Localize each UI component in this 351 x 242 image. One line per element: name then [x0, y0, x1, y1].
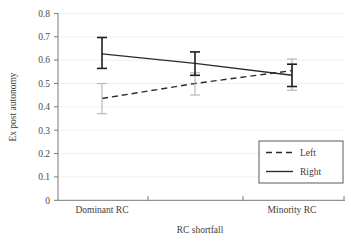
y-tick-label-3: 0.3 — [38, 126, 50, 136]
y-tick-label-5: 0.5 — [38, 79, 50, 89]
x-tick-label-minority-rc: Minority RC — [268, 205, 317, 215]
legend: Left Right — [259, 141, 343, 183]
legend-label-left: Left — [300, 148, 316, 158]
y-tick-label-1: 0.1 — [38, 172, 50, 182]
y-tick-label-7: 0.7 — [38, 32, 50, 42]
y-tick-label-8: 0.8 — [38, 9, 50, 19]
x-axis-title: RC shortfall — [177, 225, 224, 235]
series-right-line — [102, 54, 292, 75]
series-right-error-bars — [97, 38, 297, 87]
y-tick-label-2: 0.2 — [38, 149, 50, 159]
chart-container: 0 0.1 0.2 0.3 0.4 0.5 0.6 0.7 0.8 — [0, 0, 351, 242]
y-tick-label-0: 0 — [45, 196, 50, 206]
y-tick-label-4: 0.4 — [38, 102, 50, 112]
y-axis-title: Ex post autonomy — [8, 72, 18, 141]
x-tick-label-dominant-rc: Dominant RC — [75, 205, 128, 215]
y-axis-ticks — [54, 13, 58, 200]
x-axis-ticks — [148, 196, 344, 200]
series-left-error-bars — [97, 59, 297, 114]
y-tick-label-6: 0.6 — [38, 55, 50, 65]
line-chart-svg: 0 0.1 0.2 0.3 0.4 0.5 0.6 0.7 0.8 — [0, 0, 351, 242]
legend-label-right: Right — [300, 167, 321, 177]
